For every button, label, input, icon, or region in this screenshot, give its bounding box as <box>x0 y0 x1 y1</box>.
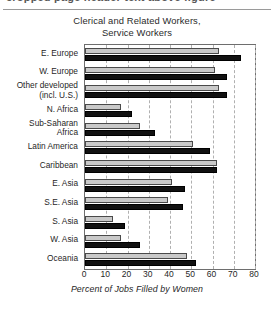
y-axis-label-11: Oceania <box>47 254 78 263</box>
bar <box>85 242 140 248</box>
page-header-strip: cropped page header text above figure <box>0 0 274 13</box>
x-tick-80: 80 <box>249 269 258 279</box>
bar-group <box>85 141 255 154</box>
y-axis-label-10: W. Asia <box>50 235 78 244</box>
bar-group <box>85 67 255 80</box>
bar-group <box>85 179 255 192</box>
x-tick-40: 40 <box>164 269 173 279</box>
y-axis-label-5: Latin America <box>28 142 78 151</box>
y-axis-label-0: E. Europe <box>41 49 78 58</box>
bar-group <box>85 253 255 266</box>
bar <box>85 111 132 117</box>
bar <box>85 260 196 266</box>
bar <box>85 253 187 259</box>
bar <box>85 216 113 222</box>
bar-group <box>85 197 255 210</box>
bar <box>85 48 219 54</box>
x-tick-70: 70 <box>228 269 237 279</box>
bar <box>85 104 121 110</box>
y-axis-label-6: Caribbean <box>40 161 78 170</box>
bar <box>85 186 185 192</box>
chart-title-line-1: Clerical and Related Workers, <box>0 15 274 27</box>
bar <box>85 123 140 129</box>
x-axis-label: Percent of Jobs Filled by Women <box>0 284 274 294</box>
bars-container <box>85 45 255 269</box>
bar <box>85 92 227 98</box>
bar-group <box>85 48 255 61</box>
x-axis-tick-labels: 01020304050607080 <box>84 269 256 281</box>
bar <box>85 235 121 241</box>
y-axis-label-4: Sub-Saharan Africa <box>29 119 78 137</box>
y-axis-label-3: N. Africa <box>47 105 78 114</box>
bar <box>85 55 241 61</box>
bar <box>85 179 172 185</box>
gridline-80 <box>255 45 256 269</box>
y-axis-label-2: Other developed (incl. U.S.) <box>17 81 78 99</box>
y-axis-label-9: S. Asia <box>52 217 78 226</box>
y-axis-category-labels: E. EuropeW. EuropeOther developed (incl.… <box>0 44 81 268</box>
plot-area <box>84 44 256 270</box>
bar <box>85 130 155 136</box>
bar-group <box>85 216 255 229</box>
bar-group <box>85 235 255 248</box>
bar <box>85 148 210 154</box>
x-tick-50: 50 <box>186 269 195 279</box>
y-axis-label-8: S.E. Asia <box>44 198 78 207</box>
x-tick-30: 30 <box>143 269 152 279</box>
bar <box>85 160 217 166</box>
bar <box>85 85 219 91</box>
bar-group <box>85 85 255 98</box>
y-axis-label-7: E. Asia <box>52 179 78 188</box>
x-tick-10: 10 <box>101 269 110 279</box>
chart-title: Clerical and Related Workers, Service Wo… <box>0 15 274 38</box>
bar-group <box>85 104 255 117</box>
bar <box>85 223 125 229</box>
header-divider <box>3 9 271 10</box>
bar <box>85 67 215 73</box>
x-tick-20: 20 <box>122 269 131 279</box>
x-tick-60: 60 <box>207 269 216 279</box>
bar <box>85 197 168 203</box>
bar-group <box>85 160 255 173</box>
bar-group <box>85 123 255 136</box>
bar <box>85 141 193 147</box>
bar <box>85 74 227 80</box>
cropped-header-text: cropped page header text above figure <box>6 0 216 3</box>
chart-title-line-2: Service Workers <box>0 27 274 39</box>
y-axis-label-1: W. Europe <box>39 67 78 76</box>
bar <box>85 167 217 173</box>
bar <box>85 204 183 210</box>
x-tick-0: 0 <box>82 269 87 279</box>
